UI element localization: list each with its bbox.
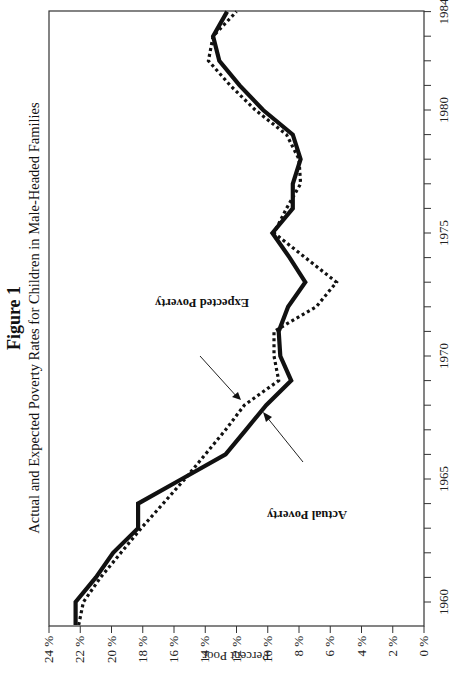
percent-tick-label: 0 % bbox=[416, 636, 431, 657]
poverty-chart: Figure 1 Actual and Expected Poverty Rat… bbox=[0, 0, 454, 682]
year-tick-label: 1965 bbox=[436, 466, 451, 492]
percent-tick-label: 24 % bbox=[41, 636, 56, 663]
percent-tick-label: 4 % bbox=[354, 636, 369, 657]
expected-arrow-line bbox=[200, 356, 238, 398]
actual-arrowhead-icon bbox=[263, 412, 272, 422]
figure-title: Actual and Expected Poverty Rates for Ch… bbox=[26, 102, 42, 534]
percent-tick-label: 22 % bbox=[72, 636, 87, 663]
percent-tick-label: 20 % bbox=[104, 636, 119, 663]
year-tick-label: 1984 bbox=[436, 0, 451, 25]
actual-annotation: Actual Poverty bbox=[263, 412, 347, 522]
expected-annotation: Expected Poverty bbox=[154, 296, 249, 400]
actual-poverty-line bbox=[76, 12, 306, 625]
percent-tick-label: 18 % bbox=[135, 636, 150, 663]
year-tick-label: 1970 bbox=[436, 343, 451, 369]
series-lines bbox=[76, 12, 337, 625]
percent-tick-label: 16 % bbox=[166, 636, 181, 663]
expected-poverty-label: Expected Poverty bbox=[154, 296, 249, 310]
figure-label: Figure 1 bbox=[4, 286, 24, 350]
actual-arrow-line bbox=[266, 416, 303, 462]
percent-tick-label: 8 % bbox=[291, 636, 306, 657]
year-tick-label: 1980 bbox=[436, 97, 451, 123]
actual-poverty-label: Actual Poverty bbox=[266, 508, 347, 522]
y-axis-title: Percent Poor bbox=[202, 649, 269, 664]
percent-tick-label: 6 % bbox=[322, 636, 337, 657]
year-tick-label: 1960 bbox=[436, 589, 451, 615]
year-axis: 196019651970197519801984 bbox=[424, 0, 451, 615]
year-tick-label: 1975 bbox=[436, 220, 451, 246]
rotated-figure: Figure 1 Actual and Expected Poverty Rat… bbox=[0, 0, 454, 682]
percent-tick-label: 2 % bbox=[385, 636, 400, 657]
expected-poverty-line bbox=[79, 12, 337, 625]
plot-frame bbox=[49, 11, 424, 626]
